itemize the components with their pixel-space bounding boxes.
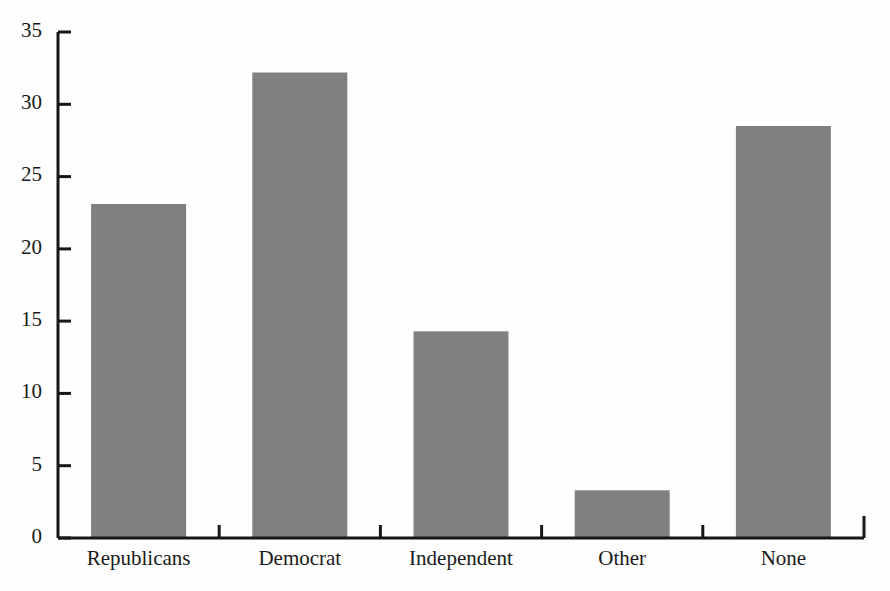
bar-democrat [252,73,347,539]
y-tick-label-20: 20 [21,235,42,259]
bar-independent [414,331,509,538]
x-tick-label-none: None [761,546,807,570]
bar-chart: 05101520253035 RepublicansDemocratIndepe… [0,0,890,591]
y-tick-label-5: 5 [32,452,43,476]
y-tick-label-30: 30 [21,90,42,114]
bar-republicans [91,204,186,538]
x-tick-label-democrat: Democrat [258,546,341,570]
y-tick-label-10: 10 [21,379,42,403]
y-tick-label-15: 15 [21,307,42,331]
y-tick-label-35: 35 [21,18,42,42]
x-tick-label-independent: Independent [409,546,513,570]
y-tick-label-0: 0 [32,524,43,548]
x-tick-label-republicans: Republicans [87,546,191,570]
y-tick-label-25: 25 [21,162,42,186]
bar-other [575,490,670,538]
chart-canvas: 05101520253035 RepublicansDemocratIndepe… [0,0,890,591]
bar-none [736,126,831,538]
x-tick-label-other: Other [598,546,646,570]
